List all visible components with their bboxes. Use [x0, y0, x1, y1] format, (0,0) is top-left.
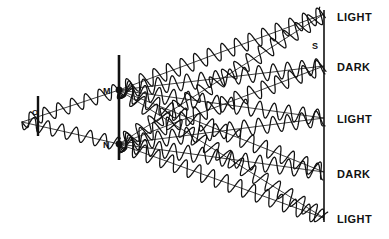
- fringe-label-3: LIGHT: [337, 114, 372, 125]
- diagram-canvas: O M N S LIGHT DARK LIGHT DARK LIGHT: [0, 0, 389, 239]
- ray-guide-N-ray-5: [119, 144, 324, 218]
- fringe-label-2: DARK: [337, 62, 370, 73]
- wave-ray-group: [22, 7, 328, 221]
- fringe-label-4: DARK: [337, 169, 370, 180]
- screen-label: S: [312, 42, 318, 51]
- slit-lower-point: [116, 141, 123, 148]
- interference-diagram: [0, 0, 389, 239]
- slit-upper-label: M: [103, 87, 111, 96]
- slit-upper-point: [116, 87, 123, 94]
- ray-guide-N-ray-4: [119, 144, 324, 172]
- ray-guide-N-ray-3: [119, 118, 324, 144]
- barrier-group: [38, 10, 324, 222]
- fringe-label-5: LIGHT: [337, 214, 372, 225]
- fringe-label-1: LIGHT: [337, 12, 372, 23]
- slit-lower-label: N: [103, 141, 110, 150]
- source-label: O: [32, 109, 38, 117]
- ray-guide-M-ray-3: [119, 90, 324, 118]
